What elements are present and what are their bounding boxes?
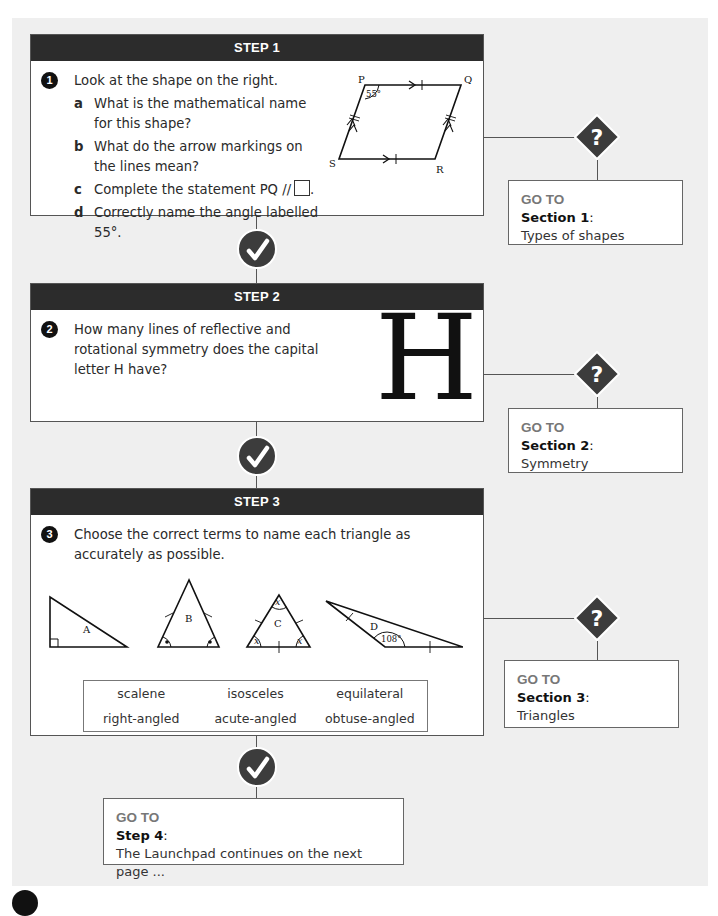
triangle-label-d: D	[370, 621, 378, 632]
term-right-angled[interactable]: right-angled	[84, 711, 198, 726]
step-2-box: STEP 2 2 How many lines of reflective an…	[30, 283, 484, 422]
term-equilateral[interactable]: equilateral	[313, 686, 427, 701]
goto-section-name: Section 3	[517, 690, 585, 705]
question-diamond-icon: ?	[574, 114, 620, 160]
triangle-label-b: B	[185, 613, 192, 624]
question-number-badge: 3	[41, 526, 58, 543]
vertex-label-p: P	[358, 75, 365, 85]
answer-blank-box[interactable]	[294, 180, 310, 196]
triangle-label-c: C	[274, 618, 282, 629]
page-corner-badge	[12, 890, 38, 916]
triangles-diagram: A B C D x x x 108°	[43, 577, 463, 677]
goto-topic: Symmetry	[521, 455, 670, 473]
question-2-text: How many lines of reflective and rotatio…	[74, 320, 341, 380]
goto-label: GO TO	[116, 809, 391, 827]
goto-section-name: Step 4	[116, 828, 163, 843]
goto-section-3-box[interactable]: GO TO Section 3: Triangles	[504, 660, 679, 728]
goto-section-name: Section 2	[521, 438, 589, 453]
term-acute-angled[interactable]: acute-angled	[198, 711, 312, 726]
check-circle-icon	[237, 229, 277, 269]
term-isosceles[interactable]: isosceles	[198, 686, 312, 701]
triangle-label-a: A	[82, 624, 91, 635]
svg-text:x: x	[275, 596, 281, 607]
question-diamond-icon: ?	[574, 351, 620, 397]
svg-text:?: ?	[591, 125, 604, 150]
check-circle-icon	[237, 436, 277, 476]
connector-step3-goto	[484, 618, 576, 619]
vertex-label-r: R	[436, 164, 444, 175]
step-3-box: STEP 3 3 Choose the correct terms to nam…	[30, 488, 484, 736]
question-1-text: Look at the shape on the right.	[74, 71, 341, 91]
question-diamond-icon: ?	[574, 595, 620, 641]
goto-topic: Triangles	[517, 707, 666, 725]
angle-label-108: 108°	[381, 634, 401, 644]
question-3-text: Choose the correct terms to name each tr…	[74, 525, 464, 565]
goto-label: GO TO	[521, 191, 670, 209]
connector-step3-goto-vert	[597, 641, 598, 661]
step-1-header: STEP 1	[31, 35, 483, 61]
question-3: 3 Choose the correct terms to name each …	[41, 525, 481, 565]
sub-question-b: b What do the arrow markings on the line…	[74, 137, 324, 177]
connector-step1-goto	[484, 137, 576, 138]
vertex-label-q: Q	[464, 75, 472, 85]
question-number-badge: 2	[41, 321, 58, 338]
goto-section-2-box[interactable]: GO TO Section 2: Symmetry	[508, 408, 683, 473]
question-number-badge: 1	[41, 72, 58, 89]
svg-text:?: ?	[591, 606, 604, 631]
term-obtuse-angled[interactable]: obtuse-angled	[313, 711, 427, 726]
connector-step2-goto	[484, 374, 576, 375]
svg-text:?: ?	[591, 362, 604, 387]
goto-topic: The Launchpad continues on the next page…	[116, 845, 391, 881]
svg-text:x: x	[254, 635, 260, 646]
angle-label-55: 55°	[366, 89, 381, 99]
parallelogram-diagram: P Q R S 55°	[327, 75, 487, 185]
step-3-header: STEP 3	[31, 489, 483, 515]
terms-box: scalene isosceles equilateral right-angl…	[83, 680, 428, 732]
term-scalene[interactable]: scalene	[84, 686, 198, 701]
goto-label: GO TO	[517, 671, 666, 689]
step-1-box: STEP 1 1 Look at the shape on the right.…	[30, 34, 484, 216]
goto-section-1-box[interactable]: GO TO Section 1: Types of shapes	[508, 180, 683, 245]
sub-question-d: d Correctly name the angle labelled 55°.	[74, 203, 341, 243]
vertex-label-s: S	[329, 158, 336, 169]
question-1: 1 Look at the shape on the right. a What…	[41, 71, 341, 243]
goto-section-name: Section 1	[521, 210, 589, 225]
goto-topic: Types of shapes	[521, 227, 670, 245]
goto-step-4-box[interactable]: GO TO Step 4: The Launchpad continues on…	[103, 798, 404, 865]
goto-label: GO TO	[521, 419, 670, 437]
check-circle-icon	[237, 747, 277, 787]
question-2: 2 How many lines of reflective and rotat…	[41, 320, 341, 380]
letter-h-diagram: H	[375, 298, 478, 418]
sub-question-c: c Complete the statement PQ //.	[74, 180, 341, 200]
connector-step1-goto-vert	[597, 160, 598, 180]
sub-question-a: a What is the mathematical name for this…	[74, 94, 324, 134]
svg-text:x: x	[297, 635, 303, 646]
